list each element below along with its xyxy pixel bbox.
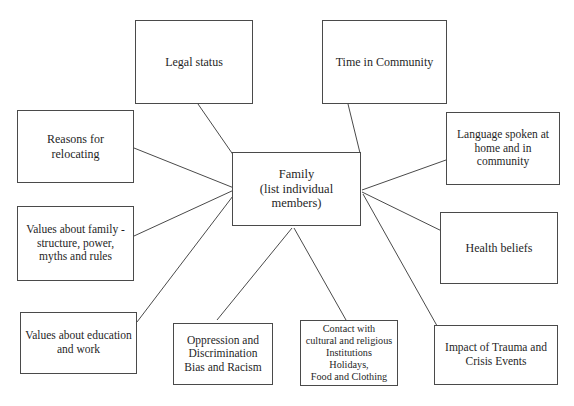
- edge-health-beliefs: [362, 192, 452, 236]
- edge-contact-cultural: [294, 228, 346, 320]
- node-values-education[interactable]: Values about education and work: [20, 312, 137, 374]
- node-label-values-family: Values about family - structure, power, …: [22, 223, 129, 264]
- edge-values-education: [137, 192, 236, 322]
- node-label-time-in-community: Time in Community: [332, 55, 438, 69]
- node-label-language-spoken: Language spoken at home and in community: [453, 128, 553, 169]
- node-time-in-community[interactable]: Time in Community: [322, 20, 447, 104]
- node-trauma-impact[interactable]: Impact of Trauma and Crisis Events: [434, 325, 558, 385]
- node-label-health-beliefs: Health beliefs: [462, 241, 537, 255]
- node-reasons-relocating[interactable]: Reasons for relocating: [17, 110, 134, 183]
- edge-values-family: [134, 190, 234, 236]
- edge-time-in-community: [348, 104, 360, 153]
- edge-reasons-relocating: [134, 148, 234, 188]
- node-legal-status[interactable]: Legal status: [135, 20, 253, 104]
- node-label-oppression: Oppression and Discrimination Bias and R…: [180, 334, 265, 375]
- node-label-family-center: Family (list individual members): [233, 167, 360, 211]
- node-label-values-education: Values about education and work: [21, 329, 136, 356]
- node-language-spoken[interactable]: Language spoken at home and in community: [446, 112, 560, 185]
- node-values-family[interactable]: Values about family - structure, power, …: [17, 206, 134, 281]
- node-oppression[interactable]: Oppression and Discrimination Bias and R…: [173, 323, 273, 385]
- diagram-canvas: Legal status Time in Community Reasons f…: [0, 0, 574, 406]
- edge-legal-status: [198, 104, 234, 156]
- edge-oppression: [217, 228, 292, 320]
- node-label-contact-cultural: Contact with cultural and religious Inst…: [302, 323, 397, 383]
- node-label-reasons-relocating: Reasons for relocating: [43, 132, 108, 160]
- node-family-center[interactable]: Family (list individual members): [232, 152, 361, 226]
- edge-trauma-impact: [363, 194, 445, 340]
- node-health-beliefs[interactable]: Health beliefs: [440, 212, 558, 284]
- edge-language-spoken: [362, 160, 446, 190]
- node-contact-cultural[interactable]: Contact with cultural and religious Inst…: [300, 320, 398, 386]
- node-label-legal-status: Legal status: [161, 55, 227, 69]
- node-label-trauma-impact: Impact of Trauma and Crisis Events: [441, 341, 551, 368]
